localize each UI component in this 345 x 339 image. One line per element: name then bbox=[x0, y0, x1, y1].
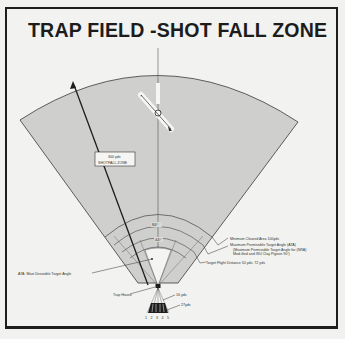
callout-trap-house: Trap House bbox=[113, 293, 132, 297]
callout-16yds: 16 yds bbox=[176, 293, 187, 297]
callout-target-flight: Target Flight Distance 50 yds. 72 yds bbox=[206, 261, 265, 265]
callout-27yds: 27yds bbox=[181, 303, 191, 307]
angle-inner-label: 44° bbox=[155, 237, 162, 242]
shotfall-label-line2: SHOTFALL ZONE bbox=[98, 161, 128, 165]
callout-max-angle-3: Mod-ified and ISU Clay Pigeon 90°) bbox=[233, 252, 290, 256]
arrow-head-icon bbox=[70, 81, 76, 89]
station-2: 2 bbox=[151, 316, 153, 320]
angle-outer-label: 84° bbox=[152, 222, 159, 227]
callout-ata: ATA: Most Desirable Target Angle bbox=[18, 272, 71, 276]
callout-min-cleared: Minimum Cleared Area 100yds bbox=[230, 237, 279, 241]
station-3: 3 bbox=[156, 316, 158, 320]
station-4: 4 bbox=[162, 316, 164, 320]
trap-field-diagram: 84° 44° 300 yds SHOTFALL ZONE × Minimum … bbox=[0, 0, 345, 339]
station-5: 5 bbox=[167, 316, 169, 320]
leader-trap-house bbox=[130, 287, 155, 294]
leader-min-cleared bbox=[212, 237, 228, 245]
leader-max-angle bbox=[203, 245, 228, 254]
leader-27yds bbox=[167, 305, 180, 310]
shotfall-label-line1: 300 yds bbox=[108, 155, 121, 159]
leader-16yds bbox=[163, 295, 175, 300]
shooting-stations bbox=[147, 288, 169, 313]
trap-house bbox=[156, 284, 161, 288]
station-1: 1 bbox=[145, 316, 147, 320]
callout-max-angle-1: Maximum Permissible Target Angle (ATA) bbox=[230, 243, 296, 247]
callout-max-angle-2: (Maximum Permissible Target Angle for (N… bbox=[233, 248, 306, 252]
